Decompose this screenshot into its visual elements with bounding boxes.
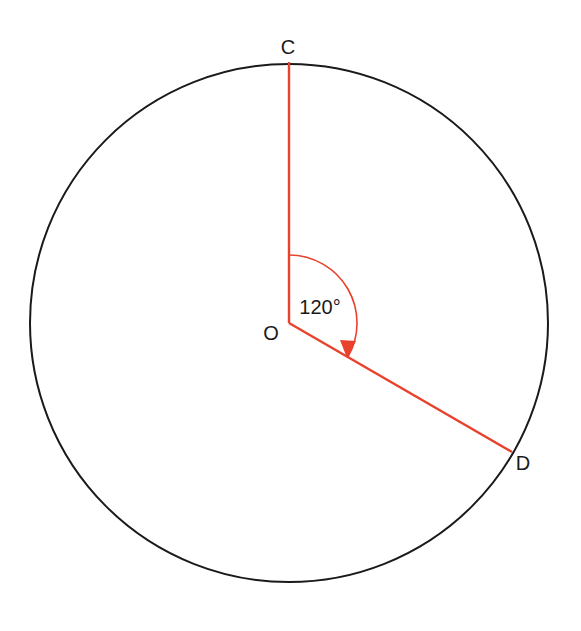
- point-label-d: D: [516, 452, 530, 474]
- radius-od: [289, 323, 512, 452]
- point-label-o: O: [263, 322, 279, 344]
- arrowhead-icon: [340, 340, 356, 358]
- point-label-c: C: [281, 36, 295, 58]
- diagram-canvas: C O D 120°: [0, 0, 581, 631]
- angle-label: 120°: [299, 296, 340, 318]
